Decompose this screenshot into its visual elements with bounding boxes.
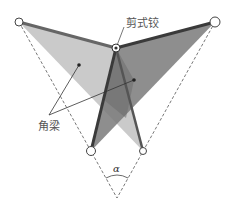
leader-dot-left [77,63,81,67]
leader-left-panel [49,65,79,115]
angle-label: α [113,163,120,174]
joint-bottom-left [87,147,96,156]
joint-bottom-right [140,148,147,155]
joint-top-left [15,18,23,26]
scissor-hinge-diagram [0,0,236,210]
hinge-label: 剪式铰 [126,18,159,29]
angle-arc [106,175,128,178]
scissor-hinge-center [114,46,117,49]
beams-label: 角梁 [38,121,60,132]
joint-top-right [210,17,220,27]
leader-dot-right [132,78,136,82]
